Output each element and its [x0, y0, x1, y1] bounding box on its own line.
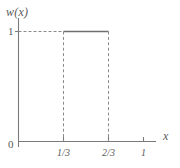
x-tick-label-one: 1	[141, 148, 146, 158]
y-tick-label-1: 1	[8, 26, 14, 37]
weight-function-figure: w(x) x 0 1 1/3 2/3 1	[0, 0, 180, 168]
y-axis-label: w(x)	[6, 6, 28, 18]
origin-label: 0	[8, 139, 14, 150]
x-tick-label-one-third: 1/3	[57, 148, 70, 158]
x-tick-label-two-thirds: 2/3	[102, 148, 115, 158]
plot-canvas	[0, 0, 180, 168]
x-axis-label: x	[163, 130, 168, 142]
